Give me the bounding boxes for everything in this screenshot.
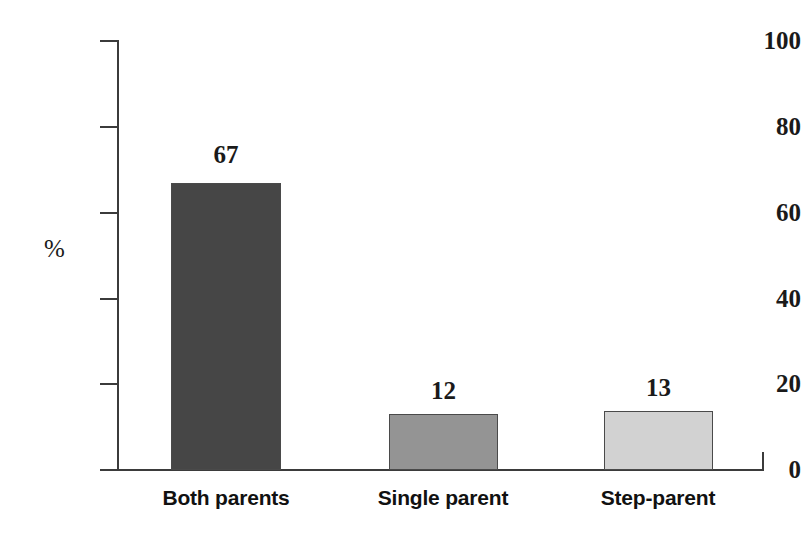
y-tick-label-40: 40 [719,286,801,311]
bar-chart: 100 80 60 40 20 0 % 67 12 13 Both parent… [0,0,801,541]
y-tick-mark-40 [100,298,118,300]
y-tick-label-100: 100 [719,28,801,53]
x-axis-end-tick [762,452,764,470]
y-tick-mark-20 [100,383,118,385]
bar-single-parent[interactable] [389,414,498,470]
y-tick-label-60: 60 [719,200,801,225]
bar-step-parent[interactable] [604,411,713,470]
y-tick-mark-60 [100,212,118,214]
category-label-both-parents: Both parents [136,487,316,508]
bar-value-step-parent: 13 [604,375,713,400]
y-axis-line [117,40,119,471]
y-tick-label-80: 80 [719,114,801,139]
y-axis-unit-label: % [44,236,65,261]
category-label-single-parent: Single parent [353,487,533,508]
y-tick-mark-80 [100,126,118,128]
y-tick-label-20: 20 [719,371,801,396]
bar-value-single-parent: 12 [389,378,498,403]
bar-both-parents[interactable] [171,183,281,470]
bar-value-both-parents: 67 [171,142,281,167]
y-tick-mark-0 [100,469,118,471]
y-tick-mark-100 [100,40,118,42]
category-label-step-parent: Step-parent [568,487,748,508]
